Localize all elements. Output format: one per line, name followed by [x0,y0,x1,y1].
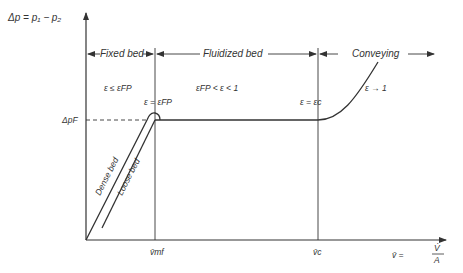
condition-at-mf: ε = εFP [144,97,172,107]
y-axis-label: Δp = p₁ − p₂ [7,12,61,23]
regime-label: Fluidized bed [203,48,263,59]
condition-conveying: ε → 1 [365,83,387,93]
regime-fluidized: Fluidized bed [157,48,316,59]
x-axis-label-den: A [433,255,440,265]
condition-at-c: ε = εc [300,97,322,107]
regime-conveying: Conveying [320,48,434,59]
regime-fixed: Fixed bed [88,48,153,59]
condition-fixed: ε ≤ εFP [104,83,132,93]
fluidization-diagram: Δp = p₁ − p₂ v̄ = V̇ A Fixed bed Fluidiz… [0,0,463,273]
fluidized-plateau [155,62,378,120]
regime-label: Conveying [352,48,400,59]
x-axis-label-lhs: v̄ = [392,250,404,260]
regime-label: Fixed bed [100,48,144,59]
v-mf-label: v̄mf [150,247,165,257]
condition-fluidized: εFP < ε < 1 [196,83,238,93]
x-axis-label-num: V̇ [434,243,441,253]
v-c-label: v̄c [313,247,322,257]
dp-f-label: ΔpF [61,115,78,125]
